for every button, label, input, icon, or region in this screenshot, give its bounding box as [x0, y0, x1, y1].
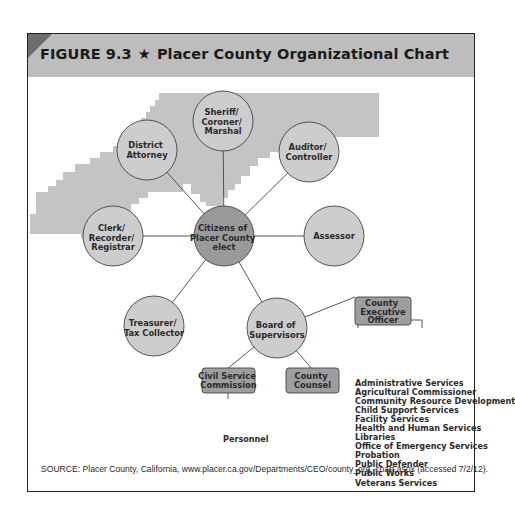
- personnel-label: Personnel: [223, 434, 269, 444]
- source-citation: SOURCE: Placer County, California, www.p…: [41, 464, 488, 474]
- label-ceo-officer: Officer: [368, 315, 400, 325]
- label-county-counsel: County Counsel: [294, 371, 331, 390]
- label-auditor: Auditor/ Controller: [286, 142, 334, 162]
- figure-frame: FIGURE 9.3★Placer County Organizational …: [27, 33, 475, 492]
- label-sheriff: Sheriff/ Coroner/ Marshal: [201, 107, 244, 136]
- label-assessor: Assessor: [313, 231, 356, 241]
- label-civil-service: Civil Service Commission: [198, 371, 258, 390]
- label-district-attorney: District Attorney: [126, 140, 168, 160]
- label-board: Board of Supervisors: [249, 320, 305, 340]
- department-item: Veterans Services: [355, 479, 515, 488]
- label-treasurer: Treasurer/ Tax Collector: [124, 318, 185, 338]
